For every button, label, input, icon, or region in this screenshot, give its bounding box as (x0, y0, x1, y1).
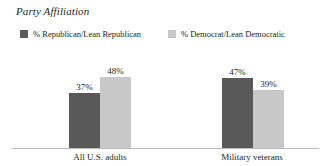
legend-swatch-republican (20, 30, 28, 38)
bar-all-adults-republican[interactable]: 37% (69, 79, 100, 148)
legend-item-democrat[interactable]: % Democrat/Lean Democratic (168, 28, 285, 40)
category-label-all-adults: All U.S. adults (73, 152, 127, 162)
plot-area: 37% 48% 47% 39% (0, 46, 331, 148)
bar-value-label: 37% (76, 82, 93, 92)
bar-all-adults-democrat[interactable]: 48% (100, 63, 131, 148)
legend-label-democrat: % Democrat/Lean Democratic (181, 29, 285, 39)
party-affiliation-chart: Party Affiliation % Republican/Lean Repu… (0, 0, 331, 166)
bar-military-veterans-republican[interactable]: 47% (222, 64, 253, 148)
bar-value-label: 47% (229, 67, 246, 77)
chart-title: Party Affiliation (16, 5, 89, 17)
x-axis-baseline (12, 148, 319, 149)
bar-military-veterans-democrat[interactable]: 39% (253, 76, 284, 148)
legend-swatch-democrat (168, 30, 176, 38)
bar-fill (69, 93, 100, 148)
bar-value-label: 39% (260, 79, 277, 89)
bar-fill (100, 77, 131, 148)
legend-item-republican[interactable]: % Republican/Lean Republican (20, 28, 141, 40)
chart-legend: % Republican/Lean Republican % Democrat/… (20, 28, 320, 40)
category-label-military-veterans: Military veterans (221, 152, 283, 162)
bar-fill (253, 90, 284, 148)
legend-label-republican: % Republican/Lean Republican (33, 29, 141, 39)
bar-value-label: 48% (107, 66, 124, 76)
bar-fill (222, 78, 253, 148)
